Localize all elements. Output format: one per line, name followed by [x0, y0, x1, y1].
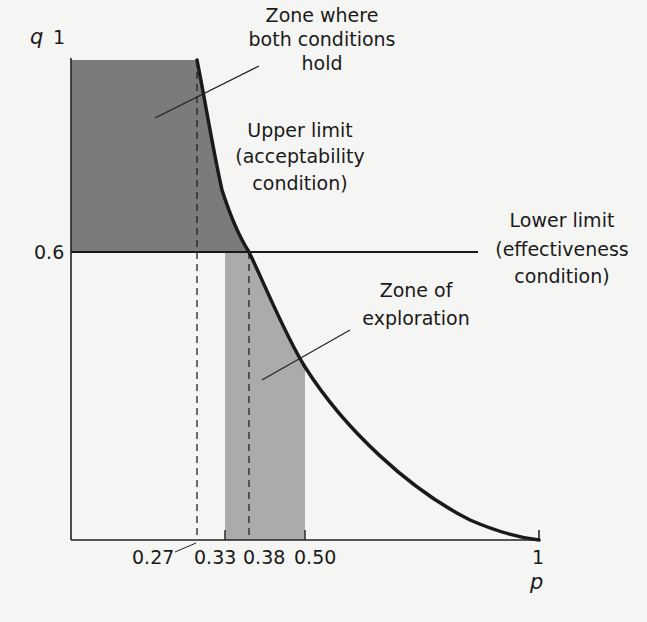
svg-text:exploration: exploration: [362, 307, 469, 329]
svg-text:Lower limit: Lower limit: [510, 209, 615, 231]
x-tick-label-038: 0.38: [243, 546, 285, 568]
q-axis-label: q: [30, 25, 43, 49]
svg-text:both conditions: both conditions: [249, 28, 396, 50]
x-tick-label-033: 0.33: [194, 546, 236, 568]
svg-text:(effectiveness: (effectiveness: [495, 238, 629, 260]
leader-027: [175, 543, 196, 552]
annotation-zone-both: Zone where both conditions hold: [249, 4, 396, 74]
p-axis-label: p: [529, 570, 543, 594]
svg-text:condition): condition): [252, 172, 347, 194]
x-tick-label-027: 0.27: [132, 546, 174, 568]
svg-text:hold: hold: [301, 52, 342, 74]
svg-text:Zone of: Zone of: [380, 279, 454, 301]
svg-text:(acceptability: (acceptability: [235, 145, 364, 167]
annotation-lower-limit: Lower limit (effectiveness condition): [495, 209, 629, 287]
annotation-upper-limit: Upper limit (acceptability condition): [235, 119, 364, 194]
zone-both-conditions-region: [71, 60, 249, 252]
svg-text:Upper limit: Upper limit: [247, 119, 352, 141]
svg-text:Zone where: Zone where: [266, 4, 379, 26]
chart: q 1 0.6 0.27 0.33 0.38 0.50 1 p Zone whe…: [0, 0, 647, 622]
y-tick-label-1: 1: [53, 26, 65, 48]
x-tick-label-050: 0.50: [294, 546, 336, 568]
svg-text:condition): condition): [514, 265, 609, 287]
y-tick-label-06: 0.6: [34, 241, 64, 263]
x-tick-label-1: 1: [532, 546, 544, 568]
annotation-zone-exploration: Zone of exploration: [362, 279, 469, 329]
zone-of-exploration-region: [225, 252, 305, 540]
